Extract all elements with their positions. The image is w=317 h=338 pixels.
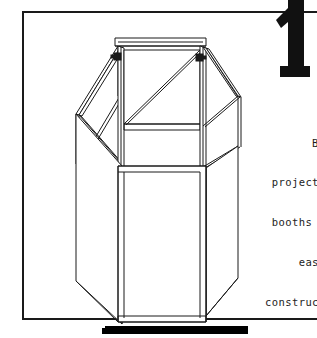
booth-illustration-svg <box>48 26 244 331</box>
right-hinge-post <box>200 46 206 168</box>
front-panel <box>118 166 206 322</box>
figure-page: Back projection booths are easily constr… <box>0 0 317 338</box>
caption-line: easily <box>220 256 317 269</box>
caption-line: constructed <box>220 296 317 309</box>
left-hinge-post <box>118 46 124 168</box>
caption-line: Back <box>220 137 317 150</box>
left-side-panel <box>76 114 122 324</box>
bottom-black-bar <box>105 326 248 334</box>
figure-frame: Back projection booths are easily constr… <box>22 11 317 320</box>
rear-panel <box>124 50 202 130</box>
figure-caption: Back projection booths are easily constr… <box>220 110 317 338</box>
caption-line: booths are <box>220 216 317 229</box>
rear-top-rail <box>115 38 206 46</box>
booth-illustration <box>48 26 244 331</box>
caption-line: projection <box>220 176 317 189</box>
